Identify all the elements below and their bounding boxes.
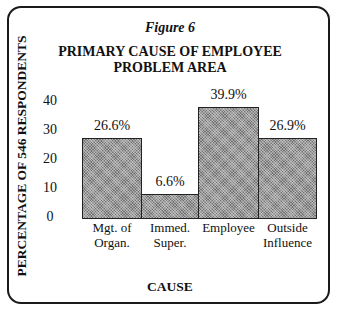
- title-line-2: PROBLEM AREA: [0, 60, 340, 76]
- y-tick-20: 20: [40, 151, 60, 167]
- y-tick-0: 0: [40, 209, 60, 225]
- figure-label: Figure 6: [0, 20, 340, 36]
- y-tick-30: 30: [40, 122, 60, 138]
- x-axis-label: CAUSE: [0, 279, 340, 295]
- category-line: Immed.: [139, 220, 201, 235]
- category-line: Outside: [254, 220, 321, 235]
- category-line: Organ.: [80, 235, 144, 250]
- category-line: Employee: [196, 220, 261, 235]
- x-category-immed: Immed. Super.: [139, 220, 201, 250]
- bar-immed-super: [141, 194, 199, 219]
- value-label-mgt: 26.6%: [82, 118, 142, 134]
- title-line-1: PRIMARY CAUSE OF EMPLOYEE: [0, 44, 340, 60]
- y-tick-40: 40: [40, 93, 60, 109]
- y-axis-label: PERCENTAGE OF 546 RESPONDENTS: [14, 16, 30, 296]
- category-line: Super.: [139, 235, 201, 250]
- value-label-outside: 26.9%: [258, 118, 317, 134]
- x-category-employee: Employee: [196, 220, 261, 235]
- x-category-mgt: Mgt. of Organ.: [80, 220, 144, 250]
- category-line: Influence: [254, 235, 321, 250]
- value-label-immed: 6.6%: [141, 174, 199, 190]
- chart-title: PRIMARY CAUSE OF EMPLOYEE PROBLEM AREA: [0, 44, 340, 76]
- y-tick-10: 10: [40, 180, 60, 196]
- x-category-outside: Outside Influence: [254, 220, 321, 250]
- bar-employee: [198, 107, 259, 219]
- bar-outside-influence: [258, 138, 317, 219]
- bar-mgt-of-organ: [82, 138, 142, 219]
- category-line: Mgt. of: [80, 220, 144, 235]
- value-label-employee: 39.9%: [198, 87, 259, 103]
